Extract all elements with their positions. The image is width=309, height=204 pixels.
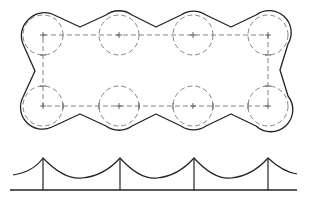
construction-rectangle [43, 35, 268, 106]
crosshair-icon [116, 32, 122, 38]
crosshair-icon [40, 103, 46, 109]
cable-profile [13, 158, 297, 178]
diagram-canvas [0, 0, 309, 204]
crosshair-icon [190, 32, 196, 38]
crosshair-icon [190, 103, 196, 109]
construction-circles [23, 15, 288, 126]
top-view [21, 11, 293, 132]
side-view [10, 158, 297, 190]
tick-mark [40, 55, 271, 86]
center-marks [40, 32, 271, 109]
crosshair-icon [40, 32, 46, 38]
crosshair-icon [116, 103, 122, 109]
crosshair-icon [265, 103, 271, 109]
scalloped-outline [21, 11, 293, 132]
crosshair-icon [265, 32, 271, 38]
